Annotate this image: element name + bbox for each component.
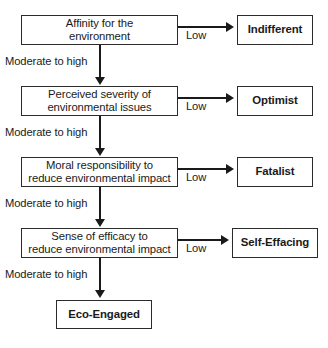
edge-high-severity-label: Moderate to high bbox=[5, 126, 87, 138]
edge-high-affinity-arrowhead bbox=[95, 77, 105, 85]
edge-low-efficacy-label: Low bbox=[186, 242, 206, 254]
edge-high-affinity-label: Moderate to high bbox=[5, 55, 87, 67]
stage-box-severity: Perceived severity of environmental issu… bbox=[21, 86, 178, 116]
outcome-label-indifferent: Indifferent bbox=[248, 23, 303, 36]
edge-low-responsibility-arrowhead bbox=[226, 164, 234, 174]
edge-high-efficacy-arrowhead bbox=[95, 290, 105, 298]
outcome-label-fatalist: Fatalist bbox=[255, 165, 294, 178]
edge-low-severity-arrowhead bbox=[226, 93, 234, 103]
outcome-box-indifferent: Indifferent bbox=[237, 15, 313, 45]
edge-high-severity-line bbox=[99, 116, 101, 150]
edge-high-responsibility-arrowhead bbox=[95, 219, 105, 227]
edge-low-affinity-arrowhead bbox=[226, 22, 234, 32]
stage-label-severity: Perceived severity of environmental issu… bbox=[47, 88, 151, 115]
outcome-label-eco-engaged: Eco-Engaged bbox=[68, 308, 140, 321]
outcome-label-self-effacing: Self-Effacing bbox=[241, 236, 309, 249]
edge-low-severity-label: Low bbox=[186, 100, 206, 112]
edge-low-efficacy-arrowhead bbox=[221, 235, 229, 245]
outcome-box-self-effacing: Self-Effacing bbox=[232, 228, 318, 258]
edge-high-affinity-line bbox=[99, 45, 101, 79]
edge-high-efficacy-line bbox=[99, 258, 101, 292]
outcome-label-optimist: Optimist bbox=[252, 94, 297, 107]
edge-low-affinity-label: Low bbox=[186, 29, 206, 41]
stage-label-efficacy: Sense of efficacy to reduce environmenta… bbox=[28, 230, 170, 257]
edge-high-responsibility-label: Moderate to high bbox=[5, 197, 87, 209]
stage-label-affinity: Affinity for the environment bbox=[66, 17, 133, 44]
edge-high-efficacy-label: Moderate to high bbox=[5, 268, 87, 280]
flowchart-diagram: Affinity for the environment Low Indiffe… bbox=[0, 0, 328, 348]
outcome-box-fatalist: Fatalist bbox=[237, 157, 313, 187]
stage-box-responsibility: Moral responsibility to reduce environme… bbox=[21, 157, 178, 187]
outcome-box-optimist: Optimist bbox=[237, 86, 313, 116]
edge-high-severity-arrowhead bbox=[95, 148, 105, 156]
edge-low-responsibility-label: Low bbox=[186, 171, 206, 183]
stage-label-responsibility: Moral responsibility to reduce environme… bbox=[28, 159, 170, 186]
outcome-box-eco-engaged: Eco-Engaged bbox=[56, 300, 152, 329]
stage-box-affinity: Affinity for the environment bbox=[21, 15, 178, 45]
edge-high-responsibility-line bbox=[99, 187, 101, 221]
stage-box-efficacy: Sense of efficacy to reduce environmenta… bbox=[21, 228, 178, 258]
